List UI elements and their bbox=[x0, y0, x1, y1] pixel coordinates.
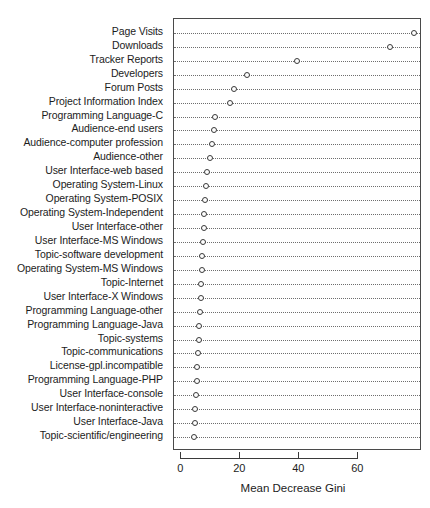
category-label: Tracker Reports bbox=[90, 54, 163, 65]
x-tick-label: 40 bbox=[292, 462, 304, 474]
data-point bbox=[207, 155, 213, 161]
gridline bbox=[174, 75, 420, 77]
data-point bbox=[192, 406, 198, 412]
category-label: User Interface-web based bbox=[45, 165, 163, 176]
gridline bbox=[174, 298, 420, 300]
x-tick bbox=[298, 452, 299, 459]
data-point bbox=[192, 420, 198, 426]
category-label: Audience-computer profession bbox=[23, 137, 163, 148]
data-point bbox=[202, 197, 208, 203]
category-label: Topic-Internet bbox=[101, 277, 163, 288]
gridline bbox=[174, 242, 420, 244]
category-label: Developers bbox=[111, 68, 163, 79]
plot-panel bbox=[173, 18, 421, 450]
category-label: Topic-communications bbox=[61, 346, 163, 357]
gridline bbox=[174, 437, 420, 439]
gridline bbox=[174, 395, 420, 397]
gridline bbox=[174, 33, 420, 35]
category-label: Programming Language-Java bbox=[27, 319, 163, 330]
category-label: Programming Language-other bbox=[26, 305, 163, 316]
gridline bbox=[174, 47, 420, 49]
data-point bbox=[294, 58, 300, 64]
category-label: Operating System-POSIX bbox=[46, 193, 163, 204]
gridline bbox=[174, 340, 420, 342]
data-point bbox=[198, 281, 204, 287]
data-point bbox=[199, 267, 205, 273]
category-label: Operating System-Independent bbox=[20, 207, 163, 218]
data-point bbox=[201, 211, 207, 217]
data-point bbox=[212, 114, 218, 120]
data-point bbox=[193, 392, 199, 398]
data-point bbox=[195, 350, 201, 356]
gridline bbox=[174, 270, 420, 272]
category-label-column: Page VisitsDownloadsTracker ReportsDevel… bbox=[0, 18, 168, 450]
variable-importance-dotplot: Page VisitsDownloadsTracker ReportsDevel… bbox=[0, 0, 430, 508]
gridline bbox=[174, 200, 420, 202]
category-label: Page Visits bbox=[112, 26, 163, 37]
data-point bbox=[198, 295, 204, 301]
x-tick-label: 20 bbox=[233, 462, 245, 474]
data-point bbox=[211, 127, 217, 133]
gridline bbox=[174, 228, 420, 230]
category-label: Topic-software development bbox=[35, 249, 163, 260]
data-point bbox=[200, 239, 206, 245]
category-label: User Interface-console bbox=[60, 388, 163, 399]
data-point bbox=[191, 434, 197, 440]
category-label: Topic-scientific/engineering bbox=[40, 430, 163, 441]
gridline bbox=[174, 409, 420, 411]
category-label: Project Information Index bbox=[49, 96, 163, 107]
data-point bbox=[209, 141, 215, 147]
category-label: Topic-systems bbox=[98, 333, 163, 344]
category-label: Operating System-MS Windows bbox=[17, 263, 163, 274]
gridline bbox=[174, 284, 420, 286]
data-point bbox=[196, 323, 202, 329]
data-point bbox=[411, 30, 417, 36]
gridline bbox=[174, 89, 420, 91]
category-label: Downloads bbox=[112, 40, 163, 51]
gridline bbox=[174, 256, 420, 258]
x-tick-label: 0 bbox=[177, 462, 183, 474]
x-tick-label: 60 bbox=[351, 462, 363, 474]
category-label: Programming Language-C bbox=[41, 110, 163, 121]
x-tick bbox=[180, 452, 181, 459]
category-label: Forum Posts bbox=[105, 82, 163, 93]
gridline bbox=[174, 172, 420, 174]
data-point bbox=[194, 364, 200, 370]
gridline bbox=[174, 353, 420, 355]
x-axis-title-text: Mean Decrease Gini bbox=[241, 482, 346, 494]
category-label: User Interface-X Windows bbox=[43, 291, 163, 302]
data-point bbox=[231, 86, 237, 92]
category-label: Audience-other bbox=[93, 151, 163, 162]
gridline bbox=[174, 214, 420, 216]
data-point bbox=[203, 183, 209, 189]
category-label: Operating System-Linux bbox=[53, 179, 163, 190]
gridline bbox=[174, 312, 420, 314]
gridline bbox=[174, 117, 420, 119]
x-tick bbox=[239, 452, 240, 459]
category-label: Programming Language-PHP bbox=[28, 374, 163, 385]
gridline bbox=[174, 423, 420, 425]
data-point bbox=[387, 44, 393, 50]
data-point bbox=[199, 253, 205, 259]
x-axis-title: Mean Decrease Gini bbox=[0, 482, 430, 494]
gridline bbox=[174, 381, 420, 383]
data-point bbox=[227, 100, 233, 106]
gridline bbox=[174, 186, 420, 188]
data-point bbox=[201, 225, 207, 231]
data-point bbox=[194, 378, 200, 384]
gridline bbox=[174, 103, 420, 105]
category-label: User Interface-noninteractive bbox=[31, 402, 163, 413]
data-point bbox=[244, 72, 250, 78]
gridline bbox=[174, 367, 420, 369]
category-label: User Interface-MS Windows bbox=[35, 235, 163, 246]
x-axis-line bbox=[180, 458, 357, 459]
x-tick bbox=[357, 452, 358, 459]
data-point bbox=[196, 337, 202, 343]
gridline bbox=[174, 326, 420, 328]
data-point bbox=[197, 309, 203, 315]
category-label: User Interface-Java bbox=[73, 416, 163, 427]
category-label: User Interface-other bbox=[72, 221, 163, 232]
data-point bbox=[204, 169, 210, 175]
category-label: Audience-end users bbox=[71, 123, 163, 134]
category-label: License-gpl.incompatible bbox=[50, 360, 163, 371]
